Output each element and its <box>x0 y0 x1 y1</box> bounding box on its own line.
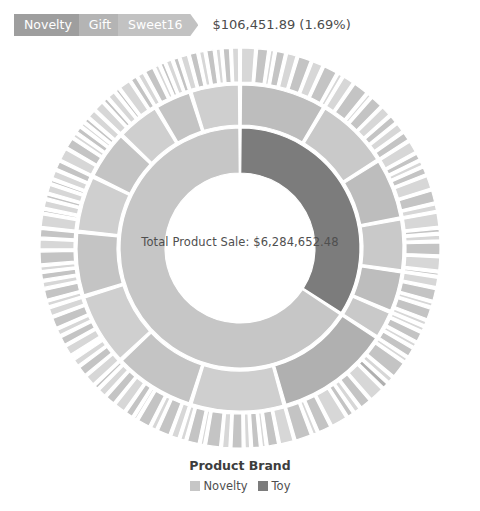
legend-item-toy[interactable]: Toy <box>258 479 291 493</box>
breadcrumb-item-brand[interactable]: Novelty <box>14 14 88 36</box>
center-total-label: Total Product Sale: $6,284,652.48 <box>0 235 480 249</box>
sunburst-arc-product[interactable] <box>255 49 268 84</box>
legend-swatch-icon <box>258 481 268 491</box>
sunburst-arc-product[interactable] <box>223 413 231 447</box>
legend-item-label: Novelty <box>204 479 248 493</box>
sunburst-arc-product[interactable] <box>251 413 260 447</box>
sunburst-arc-category[interactable] <box>192 366 283 411</box>
legend-items: Novelty Toy <box>0 479 480 493</box>
breadcrumb-item-label: Sweet16 <box>128 14 182 36</box>
sunburst-arc-product[interactable] <box>232 414 242 448</box>
legend-item-label: Toy <box>272 479 291 493</box>
legend-item-novelty[interactable]: Novelty <box>190 479 248 493</box>
sunburst-arc-product[interactable] <box>244 414 249 448</box>
legend: Product Brand Novelty Toy <box>0 458 480 493</box>
sunburst-svg[interactable] <box>0 0 480 460</box>
sunburst-arc-product[interactable] <box>223 48 231 82</box>
breadcrumb-item-label: Gift <box>89 14 111 36</box>
breadcrumb-item-label: Novelty <box>24 14 72 36</box>
sunburst-arc-product[interactable] <box>40 251 74 264</box>
breadcrumb-item-product[interactable]: Sweet16 <box>118 14 198 36</box>
legend-title: Product Brand <box>0 458 480 473</box>
sunburst-chart[interactable]: Total Product Sale: $6,284,652.48 <box>0 0 480 460</box>
sunburst-arc-product[interactable] <box>232 48 238 82</box>
legend-swatch-icon <box>190 481 200 491</box>
sunburst-arc-product[interactable] <box>405 256 440 270</box>
sunburst-arc-product[interactable] <box>405 229 439 235</box>
sunburst-arc-product[interactable] <box>241 48 254 82</box>
